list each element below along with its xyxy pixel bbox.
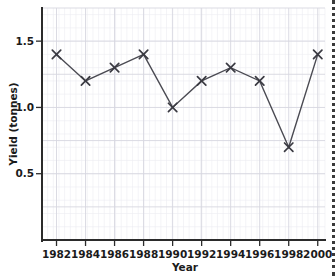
x-tick-label: 1990 (158, 248, 187, 260)
y-tick-label: 0.5 (15, 167, 34, 179)
x-tick-label: 1992 (187, 248, 216, 260)
x-tick-label: 1982 (42, 248, 71, 260)
x-tick-labels: 1982198419861988199019921994199619982000 (42, 248, 332, 260)
data-series-line (57, 54, 318, 147)
chart-canvas: 1982198419861988199019921994199619982000… (0, 0, 336, 276)
x-tick-label: 2000 (303, 248, 332, 260)
page-edge-marker (332, 0, 335, 276)
x-tick-label: 1986 (100, 248, 129, 260)
x-axis-title: Year (171, 261, 199, 273)
minor-gridlines (42, 8, 325, 240)
x-tick-label: 1984 (71, 248, 100, 260)
line-chart: 1982198419861988199019921994199619982000… (0, 0, 336, 276)
y-axis-title: Yield (tonnes) (7, 82, 19, 166)
x-tick-label: 1996 (245, 248, 274, 260)
x-tick-label: 1988 (129, 248, 158, 260)
y-tick-label: 1.5 (15, 35, 34, 47)
x-tick-label: 1998 (274, 248, 303, 260)
x-tick-label: 1994 (216, 248, 245, 260)
